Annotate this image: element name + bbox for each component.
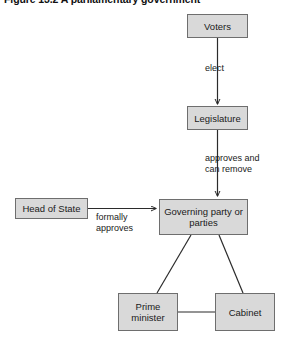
node-head-of-state[interactable]: Head of State: [15, 198, 88, 219]
node-governing-party[interactable]: Governing party or parties: [159, 199, 248, 235]
node-voters[interactable]: Voters: [187, 14, 248, 38]
edge-label-formally-approves: formally approves: [96, 212, 133, 233]
node-legislature[interactable]: Legislature: [187, 106, 248, 130]
parliamentary-government-diagram: Figure 13.2 A parliamentary government V…: [0, 0, 291, 351]
edge-label-approves-and-can-remove: approves and can remove: [205, 153, 260, 174]
edge-governing-party-to-prime-minister: [157, 235, 191, 293]
edge-governing-party-to-cabinet: [219, 235, 243, 293]
node-prime-minister[interactable]: Prime minister: [118, 293, 178, 331]
node-cabinet[interactable]: Cabinet: [215, 293, 275, 331]
edge-label-elect: elect: [205, 63, 224, 74]
